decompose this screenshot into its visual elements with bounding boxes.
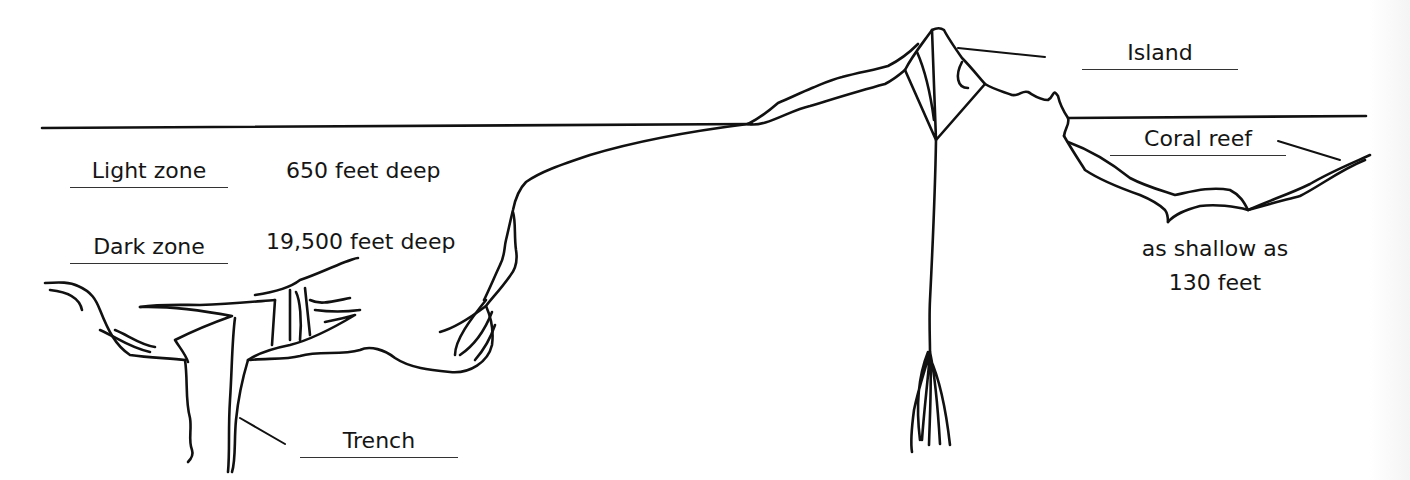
trench-label: Trench — [300, 428, 458, 458]
island-peak — [905, 28, 985, 84]
slope-ridge-2 — [460, 312, 492, 355]
dark-zone-depth: 19,500 feet deep — [266, 229, 455, 255]
trench-plateau — [140, 300, 275, 307]
island-left-lower — [748, 70, 905, 125]
island-roots — [911, 352, 950, 452]
continental-shelf — [484, 124, 748, 300]
trench-left-wall — [185, 360, 193, 462]
light-zone-depth: 650 feet deep — [286, 158, 440, 184]
left-ledge-lines — [50, 290, 155, 352]
trench-right-wall — [232, 360, 248, 472]
trench-leader-line — [240, 418, 285, 444]
reef-depth-line-2: 130 feet — [1120, 270, 1310, 296]
island-left-flank — [748, 44, 918, 124]
light-zone-label: Light zone — [70, 158, 228, 188]
coral-reef-leader-line — [1278, 141, 1340, 160]
reef-upper — [1248, 155, 1370, 210]
island-label: Island — [1082, 40, 1238, 70]
island-leader-line — [958, 48, 1045, 57]
coral-reef-label: Coral reef — [1110, 126, 1286, 156]
island-stem — [930, 140, 936, 352]
sea-level-line-right — [1068, 116, 1366, 118]
reef-depth-line-1: as shallow as — [1120, 236, 1310, 262]
trench-top-ridge — [255, 258, 358, 295]
trench-upper-shelf — [140, 307, 232, 362]
dark-zone-label: Dark zone — [70, 234, 228, 264]
island-right-flank — [985, 84, 1068, 136]
sea-level-line-left — [42, 124, 752, 128]
